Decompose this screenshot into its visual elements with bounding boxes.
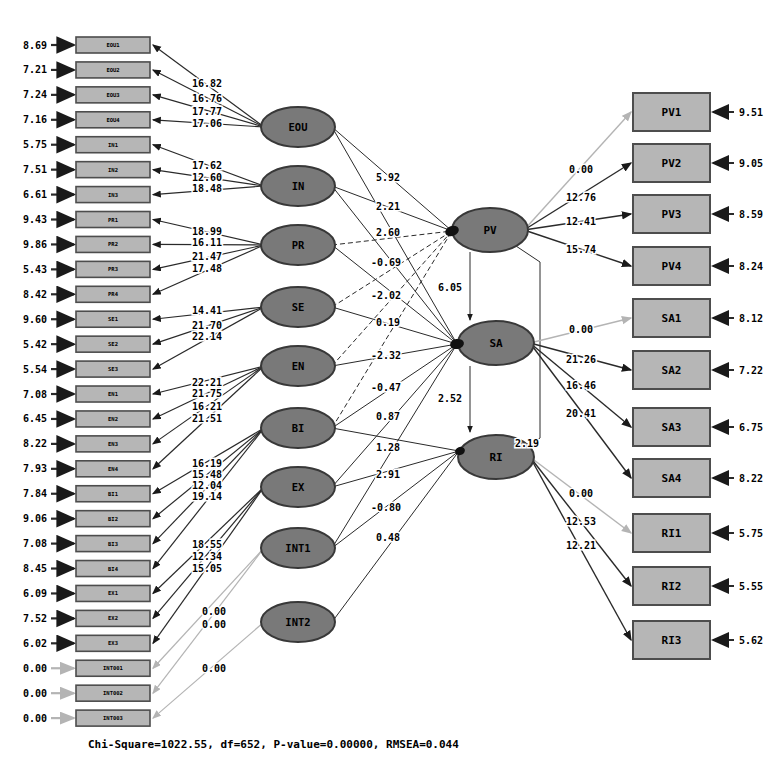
indicator-box-label: PR2 xyxy=(108,241,118,247)
loading-value: 0.00 xyxy=(569,488,593,499)
error-value: 6.45 xyxy=(23,413,47,424)
path-coefficient: -2.02 xyxy=(371,290,401,301)
indicator-box-label: BI2 xyxy=(108,516,118,522)
loading-value: 19.14 xyxy=(192,491,222,502)
error-value: 5.75 xyxy=(739,528,763,539)
indicator-box-label: SA3 xyxy=(662,421,682,434)
indicator-box-label: PR4 xyxy=(108,291,119,297)
indicator-box-label: SA1 xyxy=(662,312,682,325)
indicator-box-label: PR3 xyxy=(108,266,118,272)
path-coefficient: 0.87 xyxy=(376,411,400,422)
path-coefficient: 5.92 xyxy=(376,172,400,183)
loading-value: 21.47 xyxy=(192,251,222,262)
latent-label: INT2 xyxy=(285,616,310,628)
error-value: 8.45 xyxy=(23,563,47,574)
indicator-box-label: IN2 xyxy=(108,167,118,173)
loading-value: 17.48 xyxy=(192,263,222,274)
loading-value: 0.00 xyxy=(202,606,226,617)
indicator-box-label: EN2 xyxy=(108,416,118,422)
loading-value: 17.62 xyxy=(192,160,222,171)
error-value: 0.00 xyxy=(23,663,47,674)
latent-label: IN xyxy=(292,180,305,192)
loading-value: 0.00 xyxy=(202,663,226,674)
loading-value: 12.04 xyxy=(192,480,222,491)
indicator-box-label: EX3 xyxy=(108,640,118,646)
indicator-box-label: BI4 xyxy=(108,566,119,572)
error-value: 5.42 xyxy=(23,339,47,350)
loading-value: 12.34 xyxy=(192,551,222,562)
indicator-box-label: BI3 xyxy=(108,541,118,547)
loading-value: 15.74 xyxy=(566,244,596,255)
loading-value: 15.05 xyxy=(192,563,222,574)
indicator-box-label: PV3 xyxy=(662,208,682,221)
error-value: 8.24 xyxy=(739,261,763,272)
error-value: 7.16 xyxy=(23,114,47,125)
error-value: 5.54 xyxy=(23,364,47,375)
path-coefficient: 2.91 xyxy=(376,469,400,480)
sem-path-diagram: EOU18.69EOU27.21EOU37.24EOU47.16IN15.75I… xyxy=(0,0,783,769)
path-coefficient: 6.05 xyxy=(438,282,462,293)
path-coefficient: 1.28 xyxy=(376,442,400,453)
loading-value: 17.77 xyxy=(192,106,222,117)
indicator-box-label: INT003 xyxy=(103,715,123,721)
latent-label: SE xyxy=(292,301,305,313)
indicator-box-label: EN3 xyxy=(108,441,118,447)
error-value: 7.93 xyxy=(23,463,47,474)
indicator-box-label: SE1 xyxy=(108,316,119,322)
indicator-box-label: INT002 xyxy=(103,690,123,696)
loading-value: 16.82 xyxy=(192,78,222,89)
path-coefficient: 2.21 xyxy=(376,201,400,212)
loading-value: 21.75 xyxy=(192,388,222,399)
loading-value: 20.41 xyxy=(566,408,596,419)
error-value: 9.51 xyxy=(739,107,763,118)
indicator-box-label: RI2 xyxy=(662,580,682,593)
loading-value: 12.21 xyxy=(566,540,596,551)
latent-label: PR xyxy=(292,239,305,251)
indicator-box-label: PR1 xyxy=(108,217,119,223)
latent-label: EX xyxy=(292,481,305,493)
loading-value: 0.00 xyxy=(569,164,593,175)
error-value: 7.84 xyxy=(23,488,47,499)
loading-value: 12.41 xyxy=(566,216,596,227)
path-coefficient: -2.32 xyxy=(371,350,401,361)
indicator-box-label: BI1 xyxy=(108,491,119,497)
indicator-box-label: SE3 xyxy=(108,366,118,372)
error-value: 7.24 xyxy=(23,89,47,100)
path-coefficient: 2.52 xyxy=(438,393,462,404)
loading-value: 12.60 xyxy=(192,172,222,183)
path-coefficient: 2.19 xyxy=(515,438,539,449)
path-coefficient: 2.60 xyxy=(376,227,400,238)
indicator-box-label: EOU2 xyxy=(106,67,119,73)
error-value: 7.52 xyxy=(23,613,47,624)
loading-value: 12.76 xyxy=(566,192,596,203)
error-value: 7.08 xyxy=(23,389,47,400)
error-value: 6.09 xyxy=(23,588,47,599)
error-value: 7.51 xyxy=(23,164,47,175)
indicator-box-label: EOU3 xyxy=(106,92,119,98)
path-coefficient: 0.48 xyxy=(376,532,400,543)
loading-value: 16.76 xyxy=(192,93,222,104)
loading-value: 0.00 xyxy=(202,619,226,630)
indicator-box-label: EX1 xyxy=(108,590,119,596)
error-value: 8.42 xyxy=(23,289,47,300)
indicator-box-label: PV4 xyxy=(662,260,682,273)
loading-value: 21.26 xyxy=(566,354,596,365)
error-value: 6.75 xyxy=(739,422,763,433)
error-value: 7.22 xyxy=(739,365,763,376)
loading-value: 16.19 xyxy=(192,458,222,469)
path-coefficient: -0.80 xyxy=(371,502,401,513)
path-coefficient: -0.47 xyxy=(371,382,401,393)
error-value: 8.59 xyxy=(739,209,763,220)
sem-diagram-canvas: EOU18.69EOU27.21EOU37.24EOU47.16IN15.75I… xyxy=(0,0,783,769)
fit-statistics: Chi-Square=1022.55, df=652, P-value=0.00… xyxy=(88,738,459,751)
error-value: 7.21 xyxy=(23,64,47,75)
indicator-box-label: EN4 xyxy=(108,466,119,472)
error-value: 5.43 xyxy=(23,264,47,275)
indicator-box-label: EOU1 xyxy=(106,42,120,48)
loading-value: 12.53 xyxy=(566,516,596,527)
loading-value: 16.46 xyxy=(566,380,596,391)
error-value: 9.86 xyxy=(23,239,47,250)
error-value: 9.43 xyxy=(23,214,47,225)
indicator-box-label: RI1 xyxy=(662,527,682,540)
latent-label: PV xyxy=(483,224,497,237)
